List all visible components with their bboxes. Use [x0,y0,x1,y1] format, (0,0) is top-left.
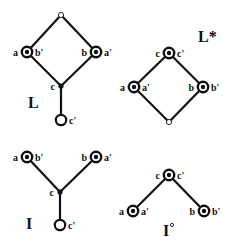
node-inner-dot [201,85,205,89]
node-label-right: b' [211,82,220,93]
node-double [164,170,174,180]
node-label-left: a [13,152,18,163]
edge-line [27,157,60,192]
edge-line [27,15,61,52]
node-label-right: a' [141,206,149,217]
node-inner-dot [25,155,29,159]
node-inner-dot [132,85,136,89]
node-small-open-circle [166,119,171,124]
node-dot [57,189,62,194]
edge-line [61,52,96,86]
title-superscript-degree [170,223,173,226]
node-inner-dot [167,51,171,55]
edge-line [60,157,96,192]
node-label-right: a' [104,152,112,163]
node-inner-dot [202,209,206,213]
node-double [129,82,139,92]
edge-line [27,52,61,86]
node-double [91,47,101,57]
edge-line [134,53,169,87]
diagram-i-o: cc'aa'bb'I [119,170,221,240]
node-inner-dot [94,155,98,159]
node-label-right: c' [177,48,184,59]
node-double [22,47,32,57]
node-inner-dot [167,173,171,177]
diagram-l-star: cc'aa'bb'L* [120,28,220,125]
node-dot [57,189,62,194]
node-label-right: c' [69,115,76,126]
node-dot [58,83,63,88]
node-label-right: c' [177,170,184,181]
node-double [198,82,208,92]
node-label-left: b [81,47,87,58]
node-label-right: b' [212,206,221,217]
node-label-right: a' [142,82,150,93]
node-double [164,48,174,58]
diagram-canvas: ab'ba'cc'Lcc'aa'bb'L*ab'ba'cc'Icc'aa'bb'… [0,0,232,248]
node-small-open [58,12,63,17]
diagram-title: L [28,94,39,111]
node-label-left: c [50,187,55,198]
node-label-left: a [120,82,125,93]
node-label-right: a' [104,47,112,58]
node-small-open [166,119,171,124]
node-double [128,206,138,216]
node-open [56,115,66,125]
node-open-circle [55,220,65,230]
node-inner-dot [94,50,98,54]
diagram-title: I [26,215,32,232]
node-label-right: b' [35,47,44,58]
edge-line [134,87,169,122]
node-label-left: a [119,206,124,217]
node-double [91,152,101,162]
node-small-open-circle [58,12,63,17]
node-dot [58,83,63,88]
edge-line [61,15,96,52]
node-label-right: c' [68,220,75,231]
node-double [22,152,32,162]
node-inner-dot [131,209,135,213]
node-label-left: b [188,82,194,93]
node-open [55,220,65,230]
node-inner-dot [25,50,29,54]
diagram-i: ab'ba'cc'I [13,152,112,233]
diagram-title: I [163,222,169,239]
node-label-left: c [51,81,56,92]
node-label-left: c [156,48,161,59]
node-label-left: b [81,152,87,163]
node-double [199,206,209,216]
edge-line [169,175,204,211]
diagram-title: L* [198,28,217,45]
diagram-l: ab'ba'cc'L [13,12,112,125]
node-open-circle [56,115,66,125]
node-label-right: b' [35,152,44,163]
edge-line [169,87,203,122]
edge-line [169,53,203,87]
node-label-left: c [156,170,161,181]
node-label-left: b [189,206,195,217]
lattice-diagrams-figure: ab'ba'cc'Lcc'aa'bb'L*ab'ba'cc'Icc'aa'bb'… [0,0,232,248]
node-label-left: a [13,47,18,58]
edge-line [133,175,169,211]
